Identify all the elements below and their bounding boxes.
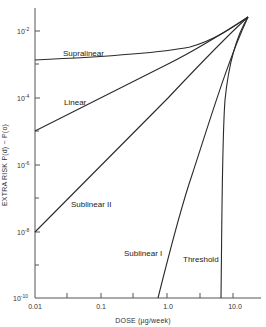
curve-threshold xyxy=(221,17,248,298)
x-ticks xyxy=(67,293,233,298)
x-tick-label: 0.01 xyxy=(28,303,42,310)
y-tick-label: 10-2 xyxy=(17,26,29,35)
x-tick-label: 10.0 xyxy=(228,303,242,310)
x-tick-labels: 0.01 0.1 1.0 10.0 xyxy=(28,303,242,310)
dose-response-chart: 10-2 10-4 10-6 10-8 10-10 0.01 0.1 1.0 1… xyxy=(0,0,266,327)
x-axis-title: DOSE (µg/week) xyxy=(115,317,170,325)
y-tick-label: 10-10 xyxy=(13,293,28,302)
x-tick-label: 0.1 xyxy=(96,303,106,310)
y-tick-label: 10-4 xyxy=(17,93,29,102)
label-supralinear: Supralinear xyxy=(63,49,104,58)
y-axis-title: EXTRA RISK P(d) − P(o) xyxy=(1,124,9,206)
y-tick-label: 10-6 xyxy=(17,160,29,169)
label-sublinear-ii: Sublinear II xyxy=(71,200,111,209)
y-tick-labels: 10-2 10-4 10-6 10-8 10-10 xyxy=(13,26,29,302)
x-tick-label: 1.0 xyxy=(163,303,173,310)
label-linear: Linear xyxy=(64,98,87,107)
label-sublinear-i: Sublinear I xyxy=(124,249,162,258)
curve-labels: Supralinear Linear Sublinear II Sublinea… xyxy=(63,49,219,264)
label-threshold: Threshold xyxy=(183,255,219,264)
y-tick-label: 10-8 xyxy=(17,227,29,236)
curve-linear xyxy=(35,17,248,131)
